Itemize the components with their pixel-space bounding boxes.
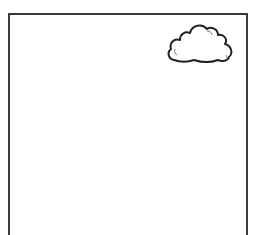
cloud-icon xyxy=(166,22,236,65)
